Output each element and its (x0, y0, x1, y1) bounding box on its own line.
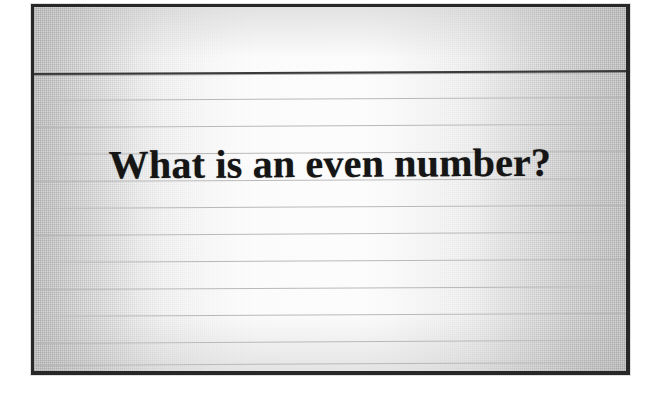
page-background: What is an even number? (0, 0, 666, 396)
question-text: What is an even number? (34, 139, 626, 189)
card-text-layer: What is an even number? (34, 7, 626, 371)
index-card: What is an even number? (31, 4, 630, 375)
